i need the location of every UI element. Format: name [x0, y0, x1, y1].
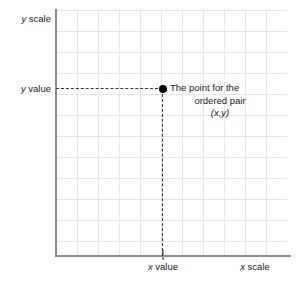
x-value-label-text: value [153, 261, 178, 272]
horizontal-dashed-guide-line [56, 88, 163, 89]
y-value-label-text: value [26, 83, 51, 94]
y-axis-line [55, 9, 57, 257]
annotation-line-2: ordered pair [170, 95, 282, 108]
vertical-dashed-guide-line [162, 89, 163, 256]
x-value-axis-label: x value [123, 261, 203, 273]
x-scale-label-text: scale [245, 261, 270, 272]
x-axis-line [55, 255, 291, 257]
x-scale-axis-label: x scale [215, 261, 295, 273]
annotation-line-3: (x,y) [170, 107, 282, 120]
grid-plot-area [56, 10, 287, 256]
y-scale-axis-label: y scale [0, 13, 51, 25]
y-value-axis-label: y value [0, 83, 51, 95]
point-annotation: The point for the ordered pair (x,y) [170, 82, 282, 120]
annotation-line-1: The point for the [170, 82, 282, 95]
ordered-pair-point-marker [159, 85, 167, 93]
y-scale-label-text: scale [26, 13, 51, 24]
coordinate-plane-figure: y scale y value x value x scale The poin… [0, 0, 305, 283]
